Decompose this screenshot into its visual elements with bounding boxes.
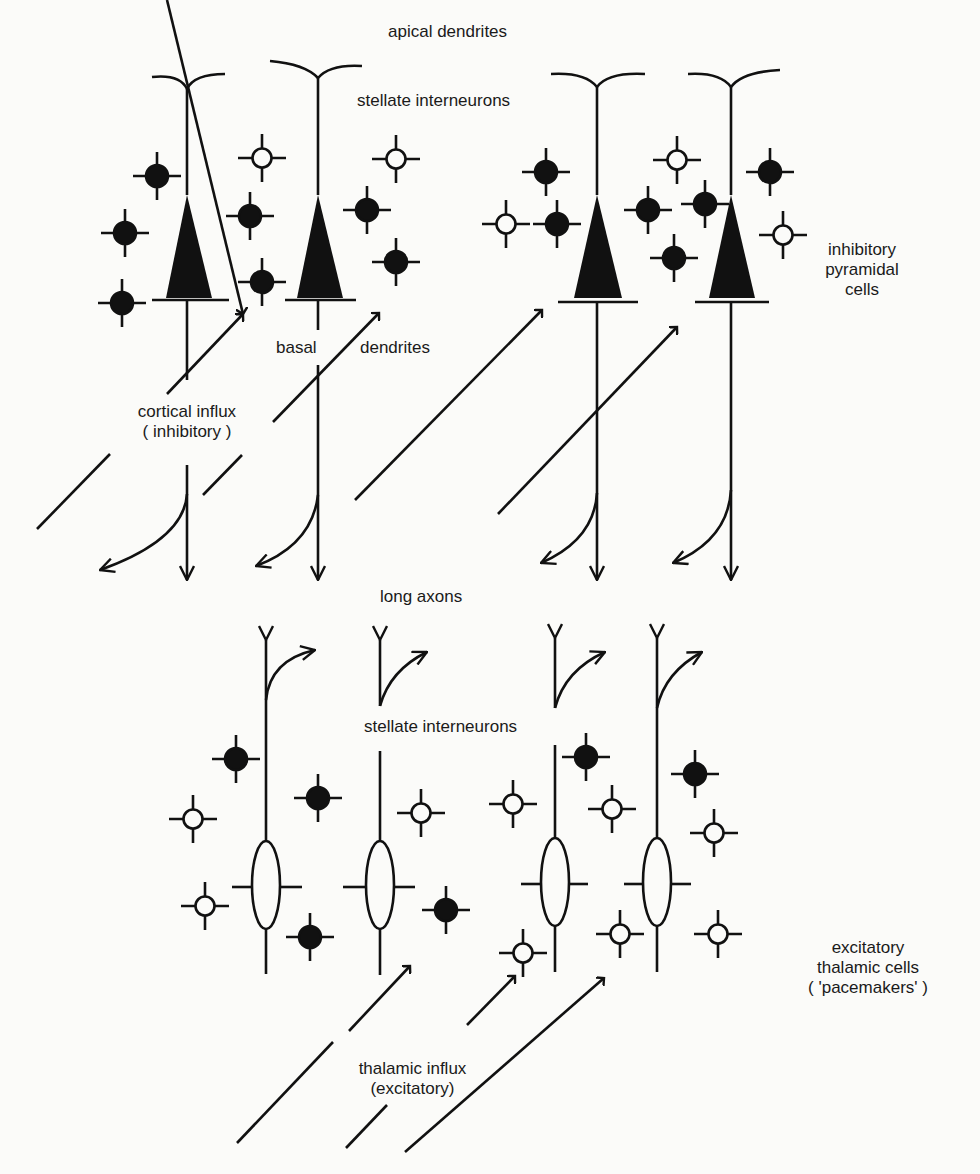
stellate-cell-open bbox=[690, 809, 738, 857]
thalamic-cell-1 bbox=[232, 640, 315, 974]
stellate-cell-open bbox=[397, 789, 445, 837]
label-excitatory-thalamic-cells: excitatory thalamic cells ( 'pacemakers'… bbox=[808, 938, 928, 998]
stellate-cell-open bbox=[482, 200, 530, 248]
stellate-cell-filled bbox=[226, 192, 274, 240]
stellate-cell-filled bbox=[238, 258, 286, 306]
label-long-axons: long axons bbox=[380, 587, 462, 607]
stellate-cell-open bbox=[169, 795, 217, 843]
pyramidal-cell-2 bbox=[256, 61, 362, 580]
label-dendrites: dendrites bbox=[360, 338, 430, 358]
label-apical-dendrites: apical dendrites bbox=[388, 22, 507, 42]
label-stellate-interneurons-bottom: stellate interneurons bbox=[364, 717, 517, 737]
stellate-cell-filled bbox=[101, 209, 149, 257]
stellate-cell-open bbox=[238, 134, 286, 182]
stellate-cell-filled bbox=[671, 750, 719, 798]
stellate-cell-filled bbox=[286, 913, 334, 961]
stellate-cell-filled bbox=[562, 733, 610, 781]
pyramidal-cell-1 bbox=[100, 74, 229, 580]
stellate-cell-filled bbox=[98, 279, 146, 327]
stellate-cell-open bbox=[489, 780, 537, 828]
label-inhibitory-pyramidal-cells: inhibitory pyramidal cells bbox=[822, 240, 902, 300]
stellate-cell-open bbox=[372, 135, 420, 183]
stellate-interneurons bbox=[98, 134, 807, 977]
thalamic-cell-4 bbox=[624, 638, 702, 972]
stellate-cell-filled bbox=[133, 152, 181, 200]
stellate-cell-filled bbox=[212, 735, 260, 783]
stellate-cell-open bbox=[759, 211, 807, 259]
stellate-cell-filled bbox=[681, 180, 729, 228]
cortical-influx-arrows bbox=[37, 0, 677, 529]
stellate-cell-open bbox=[653, 136, 701, 184]
stellate-cell-open bbox=[181, 882, 229, 930]
stellate-cell-open bbox=[588, 785, 636, 833]
label-basal: basal bbox=[276, 338, 317, 358]
stellate-cell-filled bbox=[294, 774, 342, 822]
stellate-cell-filled bbox=[533, 200, 581, 248]
stellate-cell-filled bbox=[624, 186, 672, 234]
label-thalamic-influx: thalamic influx (excitatory) bbox=[345, 1059, 480, 1099]
stellate-cell-filled bbox=[372, 238, 420, 286]
stellate-cell-filled bbox=[522, 148, 570, 196]
stellate-cell-filled bbox=[422, 886, 470, 934]
stellate-cell-filled bbox=[343, 186, 391, 234]
label-cortical-influx: cortical influx ( inhibitory ) bbox=[112, 402, 262, 442]
label-stellate-interneurons-top: stellate interneurons bbox=[357, 91, 510, 111]
stellate-cell-open bbox=[596, 910, 644, 958]
pyramidal-cell-4 bbox=[673, 70, 780, 580]
stellate-cell-open bbox=[694, 910, 742, 958]
stellate-cell-open bbox=[499, 929, 547, 977]
stellate-cell-filled bbox=[746, 148, 794, 196]
stellate-cell-filled bbox=[650, 234, 698, 282]
pyramidal-cell-3 bbox=[541, 74, 645, 580]
